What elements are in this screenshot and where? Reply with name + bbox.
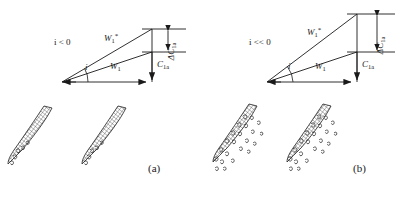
incidence-angle-label-b: i — [288, 62, 291, 71]
panel-caption-b: (b) — [353, 162, 366, 174]
delta-c1a-base-a: ΔC — [166, 49, 176, 60]
delta-c1a-label-b: ΔC1a — [376, 37, 386, 54]
figure-panel-b: i << 0 W1* W1 C1a ΔC1a i (b) — [205, 0, 409, 198]
blade-a-1 — [8, 106, 52, 165]
c1a-label-b: C1a — [362, 60, 374, 70]
c1a-sub-b: 1a — [368, 63, 374, 70]
w1-label-b: W1 — [315, 62, 326, 72]
figure-panel-a: i < 0 W1* W1 C1a ΔC1a i (a) — [0, 0, 204, 198]
w1-star-sup-a: * — [115, 32, 119, 40]
c1a-label-a: C1a — [157, 60, 169, 70]
delta-c1a-base-b: ΔC — [375, 43, 385, 54]
c1a-sub-a: 1a — [163, 63, 169, 70]
w1-vector-a — [62, 52, 152, 82]
w1-sub-a: 1 — [118, 65, 121, 72]
blade-b-2 — [287, 104, 337, 171]
incidence-condition-label-a: i < 0 — [54, 38, 71, 47]
w1-star-vector-b — [267, 14, 357, 82]
stall-region-b-1 — [214, 115, 263, 171]
w1-sub-b: 1 — [323, 65, 326, 72]
w1-star-base-b: W — [307, 27, 315, 37]
w1-star-sup-b: * — [318, 26, 322, 34]
incidence-angle-label-a: i — [85, 63, 88, 72]
w1-star-label-b: W1* — [307, 27, 321, 38]
w1-star-label-a: W1* — [104, 33, 118, 44]
w1-base-a: W — [110, 61, 118, 71]
blade-a-2 — [82, 106, 126, 165]
delta-c1a-sub-a: 1a — [170, 43, 177, 49]
w1-label-a: W1 — [110, 62, 121, 72]
delta-c1a-sub-b: 1a — [379, 37, 386, 43]
blade-b-1 — [213, 104, 263, 171]
w1-base-b: W — [315, 61, 323, 71]
w1-star-base-a: W — [104, 33, 112, 43]
incidence-angle-symbol-a: i — [85, 62, 88, 72]
delta-c1a-label-a: ΔC1a — [167, 43, 177, 60]
incidence-condition-label-b: i << 0 — [249, 38, 271, 47]
panel-a-graphics — [0, 0, 204, 198]
incidence-angle-symbol-b: i — [288, 61, 291, 71]
stall-region-b-2 — [288, 115, 337, 171]
panel-caption-a: (a) — [148, 162, 160, 174]
w1-vector-b — [267, 52, 357, 82]
